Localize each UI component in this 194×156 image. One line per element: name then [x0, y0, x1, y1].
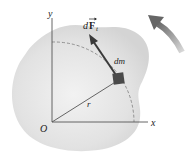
radius-label: r	[87, 99, 91, 109]
origin-label: O	[40, 123, 47, 134]
y-axis-label: y	[47, 8, 53, 19]
mass-element-label: dm	[114, 56, 126, 66]
force-label: d F t	[83, 18, 99, 33]
mass-element-block	[112, 72, 124, 84]
rigid-body-diagram: y x O r dm d F t	[0, 0, 194, 156]
x-axis-label: x	[150, 117, 156, 128]
rotation-direction-icon	[148, 15, 182, 52]
force-label-F: F	[89, 20, 95, 31]
rigid-body-shape	[12, 25, 149, 151]
